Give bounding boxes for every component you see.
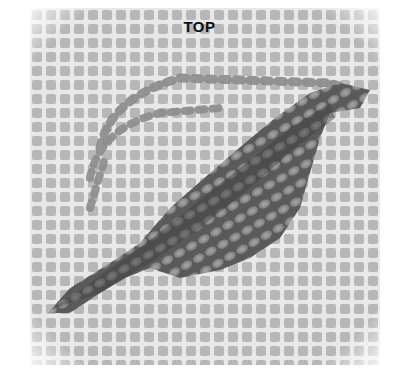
needlepoint-photo xyxy=(30,8,380,365)
figure-label: TOP xyxy=(0,18,399,35)
